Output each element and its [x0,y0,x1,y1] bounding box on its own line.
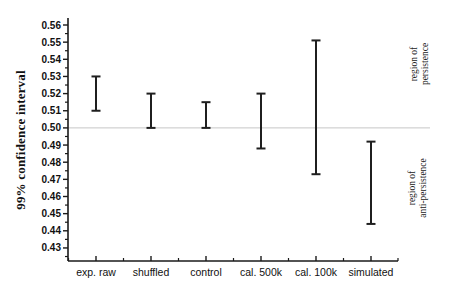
y-tick-label: 0.50 [42,122,62,133]
x-tick-label: cal. 500k [240,266,283,278]
y-tick-label: 0.53 [42,71,62,82]
y-tick-label: 0.55 [42,37,62,48]
y-tick-label: 0.52 [42,88,62,99]
x-tick-label: control [190,266,222,278]
y-tick-label: 0.44 [42,225,62,236]
region-persistence-annotation: region of persistence [409,43,430,85]
region-anti-persistence-line1: region of [407,158,418,218]
region-anti-persistence-line2: anti-persistence [417,158,428,218]
y-tick-label: 0.46 [42,191,62,202]
y-tick-label: 0.56 [42,20,62,31]
y-tick-label: 0.45 [42,208,62,219]
y-tick-label: 0.48 [42,157,62,168]
y-tick-label: 0.49 [42,140,62,151]
chart-plot: 0.430.440.450.460.470.480.490.500.510.52… [0,0,450,297]
x-tick-label: shuffled [133,266,170,278]
y-axis-title: 99% confidence interval [13,70,29,210]
y-tick-label: 0.54 [42,54,62,65]
region-anti-persistence-annotation: region of anti-persistence [407,158,428,218]
region-persistence-line1: region of [409,43,420,85]
y-tick-label: 0.43 [42,242,62,253]
y-tick-label: 0.51 [42,105,62,116]
x-tick-label: cal. 100k [295,266,338,278]
region-persistence-line2: persistence [419,43,430,85]
x-tick-label: simulated [349,266,394,278]
x-tick-label: exp. raw [76,266,116,278]
y-tick-label: 0.47 [42,174,62,185]
figure: 0.430.440.450.460.470.480.490.500.510.52… [0,0,450,297]
